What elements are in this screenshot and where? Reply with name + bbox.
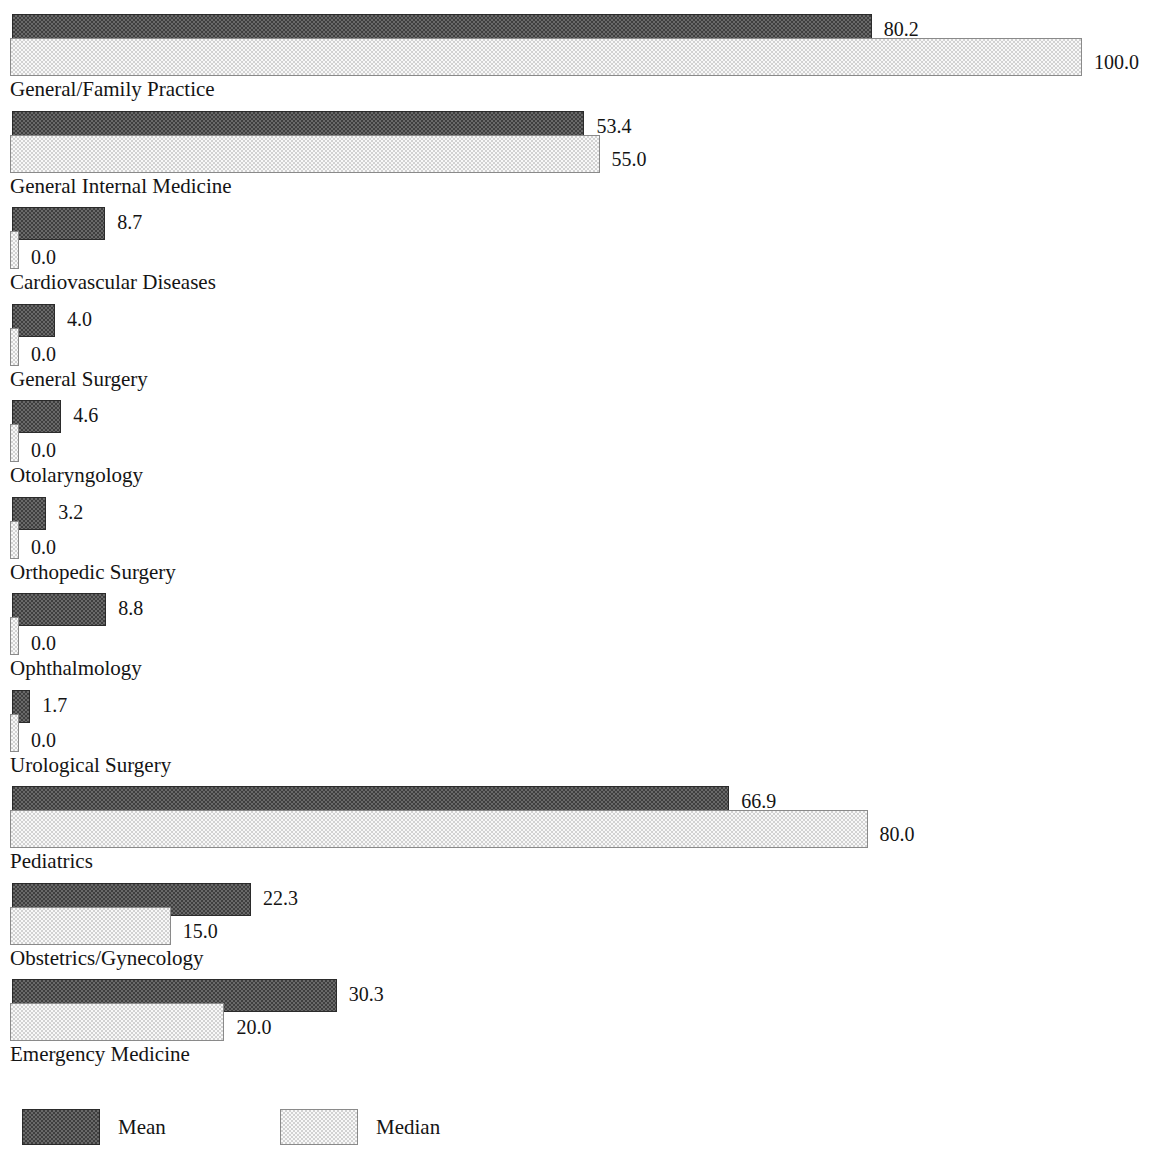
bar-median	[10, 328, 19, 366]
bar-group-bars: 66.980.0	[0, 786, 1169, 848]
bar-value-mean: 1.7	[42, 695, 67, 715]
bar-median	[10, 38, 1082, 76]
bar-group: 66.980.0Pediatrics	[0, 786, 1169, 848]
bar-group-bars: 3.20.0	[0, 497, 1169, 559]
bar-group: 1.70.0Urological Surgery	[0, 690, 1169, 752]
bar-group-bars: 53.455.0	[0, 111, 1169, 173]
bar-group-bars: 8.80.0	[0, 593, 1169, 655]
category-label: Orthopedic Surgery	[10, 561, 176, 583]
bar-value-mean: 66.9	[741, 791, 776, 811]
bar-median	[10, 135, 600, 173]
bar-chart: 80.2100.0General/Family Practice53.455.0…	[0, 0, 1169, 1172]
bar-mean	[12, 207, 105, 240]
bar-value-mean: 8.7	[117, 212, 142, 232]
category-label: Emergency Medicine	[10, 1043, 190, 1065]
bar-median	[10, 810, 868, 848]
plot-area: 80.2100.0General/Family Practice53.455.0…	[0, 0, 1169, 1075]
category-label: Otolaryngology	[10, 464, 143, 486]
legend-swatch-median	[280, 1109, 358, 1145]
bar-group-bars: 22.315.0	[0, 883, 1169, 945]
bar-mean	[12, 400, 61, 433]
bar-value-median: 20.0	[236, 1017, 271, 1037]
bar-value-median: 0.0	[31, 633, 56, 653]
bar-value-mean: 22.3	[263, 888, 298, 908]
bar-group-bars: 8.70.0	[0, 207, 1169, 269]
bar-value-mean: 30.3	[349, 984, 384, 1004]
bar-group: 30.320.0Emergency Medicine	[0, 979, 1169, 1041]
bar-median	[10, 521, 19, 559]
bar-value-median: 100.0	[1094, 52, 1139, 72]
bar-value-median: 15.0	[183, 921, 218, 941]
category-label: Urological Surgery	[10, 754, 171, 776]
bar-group: 4.00.0General Surgery	[0, 304, 1169, 366]
category-label: Obstetrics/Gynecology	[10, 947, 204, 969]
bar-group-bars: 80.2100.0	[0, 14, 1169, 76]
bar-median	[10, 907, 171, 945]
category-label: General Internal Medicine	[10, 175, 232, 197]
bar-value-mean: 3.2	[58, 502, 83, 522]
bar-value-median: 0.0	[31, 537, 56, 557]
chart-legend: MeanMedian	[0, 1105, 1169, 1160]
bar-group: 8.80.0Ophthalmology	[0, 593, 1169, 655]
category-label: Ophthalmology	[10, 657, 142, 679]
bar-median	[10, 617, 19, 655]
bar-value-mean: 4.6	[73, 405, 98, 425]
bar-value-mean: 53.4	[596, 116, 631, 136]
bar-group: 80.2100.0General/Family Practice	[0, 14, 1169, 76]
category-label: General Surgery	[10, 368, 148, 390]
bar-group-bars: 4.60.0	[0, 400, 1169, 462]
bar-value-mean: 80.2	[884, 19, 919, 39]
category-label: Cardiovascular Diseases	[10, 271, 216, 293]
bar-group: 3.20.0Orthopedic Surgery	[0, 497, 1169, 559]
bar-median	[10, 714, 19, 752]
legend-label: Median	[376, 1115, 440, 1139]
bar-value-median: 0.0	[31, 440, 56, 460]
bar-group-bars: 4.00.0	[0, 304, 1169, 366]
bar-value-median: 0.0	[31, 247, 56, 267]
bar-group: 22.315.0Obstetrics/Gynecology	[0, 883, 1169, 945]
bar-value-median: 80.0	[880, 824, 915, 844]
bar-group: 53.455.0General Internal Medicine	[0, 111, 1169, 173]
bar-group: 4.60.0Otolaryngology	[0, 400, 1169, 462]
bar-group-bars: 30.320.0	[0, 979, 1169, 1041]
bar-value-mean: 8.8	[118, 598, 143, 618]
bar-value-median: 55.0	[612, 149, 647, 169]
bar-mean	[12, 593, 106, 626]
bar-group-bars: 1.70.0	[0, 690, 1169, 752]
legend-swatch-mean	[22, 1109, 100, 1145]
bar-median	[10, 231, 19, 269]
legend-label: Mean	[118, 1115, 166, 1139]
category-label: General/Family Practice	[10, 78, 215, 100]
bar-median	[10, 424, 19, 462]
category-label: Pediatrics	[10, 850, 93, 872]
bar-group: 8.70.0Cardiovascular Diseases	[0, 207, 1169, 269]
bar-value-median: 0.0	[31, 344, 56, 364]
bar-value-mean: 4.0	[67, 309, 92, 329]
bar-median	[10, 1003, 224, 1041]
bar-value-median: 0.0	[31, 730, 56, 750]
